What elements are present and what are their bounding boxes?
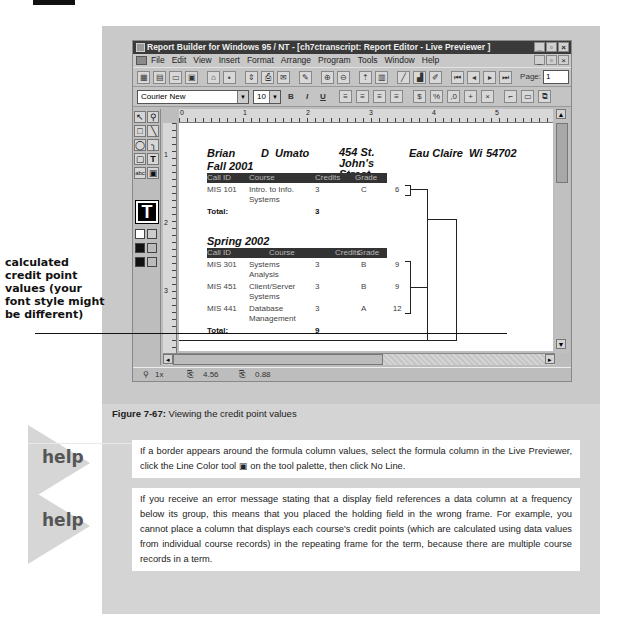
menu-arrange[interactable]: Arrange (281, 54, 311, 67)
horizontal-scrollbar[interactable]: ◂ ▸ (163, 353, 555, 365)
percent-icon[interactable]: % (430, 90, 443, 103)
bold-button[interactable]: B (285, 92, 297, 101)
credit-points-value[interactable]: 6 (395, 185, 399, 194)
image-tool-icon[interactable]: ▣ (147, 167, 159, 179)
text-color-tool-icon[interactable] (147, 257, 157, 267)
select-tool-icon[interactable]: ↖ (134, 111, 146, 123)
parameter-form-icon[interactable]: ▭ (169, 71, 182, 84)
align-left-icon[interactable]: ≡ (339, 90, 352, 103)
doc-restore-button[interactable]: ▫ (546, 55, 557, 65)
live-previewer-icon[interactable]: ▣ (185, 71, 198, 84)
scroll-right-icon[interactable]: ▸ (545, 354, 555, 364)
scroll-up-icon[interactable]: ▲ (556, 109, 566, 119)
maximize-button[interactable]: ▫ (546, 42, 557, 52)
print-icon[interactable]: ⎙ (261, 71, 274, 84)
mail-icon[interactable]: ✉ (277, 71, 290, 84)
cell-call-id: MIS 441 (207, 304, 237, 314)
text-color-swatch[interactable] (135, 257, 145, 267)
menu-program[interactable]: Program (318, 54, 351, 67)
chevron-down-icon[interactable]: ▼ (237, 91, 248, 103)
horizontal-scroll-thumb[interactable] (173, 354, 383, 365)
menu-view[interactable]: View (193, 54, 211, 67)
term-name[interactable]: Fall 2001 (207, 160, 253, 172)
doc-minimize-button[interactable]: _ (534, 55, 545, 65)
menu-edit[interactable]: Edit (172, 54, 187, 67)
minimize-button[interactable]: _ (534, 42, 545, 52)
student-first-name[interactable]: Brian (207, 147, 235, 159)
doc-close-button[interactable]: × (558, 55, 569, 65)
font-select[interactable]: Courier New▼ (137, 90, 249, 104)
student-city[interactable]: Eau Claire (409, 147, 463, 159)
vertical-scroll-thumb[interactable] (556, 123, 568, 183)
layout-model-icon[interactable]: ▤ (153, 71, 166, 84)
close-button[interactable]: × (558, 42, 569, 52)
scroll-left-icon[interactable]: ◂ (163, 354, 173, 364)
save-icon[interactable]: ▪ (223, 71, 236, 84)
menu-tools[interactable]: Tools (358, 54, 378, 67)
student-zip[interactable]: 54702 (486, 147, 517, 159)
vertical-scrollbar[interactable]: ▲ ▼ (555, 109, 569, 353)
credit-points-value[interactable]: 12 (393, 304, 401, 313)
line-icon[interactable]: ╱ (397, 71, 410, 84)
chevron-down-icon[interactable]: ▼ (269, 91, 280, 103)
line-tool-icon[interactable]: ╲ (147, 125, 159, 137)
fill-color-tool-icon[interactable] (147, 229, 157, 239)
menu-insert[interactable]: Insert (219, 54, 240, 67)
last-page-icon[interactable]: ⏭ (499, 71, 512, 84)
confine-icon[interactable]: ⧉ (538, 90, 551, 103)
menu-help[interactable]: Help (422, 54, 439, 67)
remove-decimal-icon[interactable]: × (481, 90, 494, 103)
align-center-icon[interactable]: ≡ (356, 90, 369, 103)
arc-tool-icon[interactable]: ╮ (147, 139, 159, 151)
next-page-icon[interactable]: ▸ (483, 71, 496, 84)
ruler-mark: 1 (243, 109, 247, 116)
menu-file[interactable]: File (151, 54, 165, 67)
data-model-icon[interactable]: ▦ (137, 71, 150, 84)
run-icon[interactable]: ⇕ (245, 71, 258, 84)
align-justify-icon[interactable]: ≡ (390, 90, 403, 103)
line-color-tool-icon[interactable] (147, 243, 157, 253)
text-format-icon[interactable]: T (136, 201, 158, 223)
frame-icon[interactable]: ▥ (375, 71, 388, 84)
underline-button[interactable]: U (317, 92, 329, 101)
line-color-swatch[interactable] (135, 243, 145, 253)
ruler-mark: 5 (495, 109, 499, 116)
first-page-icon[interactable]: ⏮ (451, 71, 464, 84)
zoom-in-icon[interactable]: ⊕ (321, 71, 334, 84)
currency-icon[interactable]: $ (413, 90, 426, 103)
ellipse-tool-icon[interactable]: ◯ (134, 139, 146, 151)
plug-icon[interactable]: ✎ (299, 71, 312, 84)
position-y-icon: ⎘ (239, 368, 245, 382)
cell-grade: B (361, 260, 366, 270)
italic-button[interactable]: I (301, 92, 313, 101)
pen-icon[interactable]: ✐ (429, 71, 442, 84)
field-tool-icon[interactable]: abc (134, 167, 146, 179)
page-input[interactable]: 1 (543, 70, 569, 84)
font-size-select[interactable]: 10▼ (253, 90, 281, 104)
align-right-icon[interactable]: ≡ (373, 90, 386, 103)
chart-icon[interactable]: ▟ (413, 71, 426, 84)
select-parent-icon[interactable]: ⇡ (359, 71, 372, 84)
menu-window[interactable]: Window (385, 54, 415, 67)
text-tool-icon[interactable]: T (147, 153, 159, 165)
add-decimal-icon[interactable]: + (464, 90, 477, 103)
zoom-out-icon[interactable]: ⊖ (337, 71, 350, 84)
student-last-name[interactable]: D Umato (261, 147, 309, 159)
credit-points-value[interactable]: 9 (395, 260, 399, 269)
comma-icon[interactable]: ,0 (447, 90, 460, 103)
student-state[interactable]: Wi (469, 147, 482, 159)
live-previewer-canvas[interactable]: Brian D Umato 454 St. John's Street Eau … (179, 123, 553, 351)
open-icon[interactable]: ⌂ (207, 71, 220, 84)
document-icon[interactable] (136, 56, 147, 65)
fill-color-swatch[interactable] (135, 229, 145, 239)
flex-icon[interactable]: ⌐ (504, 90, 517, 103)
rectangle-tool-icon[interactable]: □ (134, 125, 146, 137)
rounded-rect-tool-icon[interactable]: ▢ (134, 153, 146, 165)
border-icon[interactable]: ▭ (521, 90, 534, 103)
scroll-down-icon[interactable]: ▼ (556, 339, 566, 349)
credit-points-value[interactable]: 9 (395, 282, 399, 291)
prev-page-icon[interactable]: ◂ (467, 71, 480, 84)
magnify-tool-icon[interactable]: ⚲ (147, 111, 159, 123)
term-name[interactable]: Spring 2002 (207, 235, 269, 247)
menu-format[interactable]: Format (247, 54, 274, 67)
